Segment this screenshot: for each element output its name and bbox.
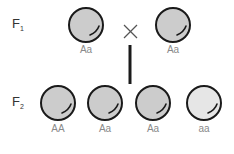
- offspring-genotype-3: Aa: [138, 123, 168, 134]
- parent-pea-2: [156, 8, 190, 42]
- offspring-genotype-1: AA: [43, 123, 73, 134]
- cross-symbol-icon: [124, 25, 137, 38]
- offspring-genotype-2: Aa: [90, 123, 120, 134]
- offspring-genotype-4: aa: [189, 123, 219, 134]
- offspring-pea-1: [41, 86, 75, 120]
- f2-label: F2: [12, 94, 24, 110]
- offspring-pea-2: [88, 86, 122, 120]
- parent-genotype-2: Aa: [158, 44, 188, 55]
- offspring-pea-3: [136, 86, 170, 120]
- parent-pea-1: [69, 8, 103, 42]
- offspring-pea-4: [187, 86, 221, 120]
- parent-genotype-1: Aa: [71, 44, 101, 55]
- f1-label: F1: [12, 16, 24, 32]
